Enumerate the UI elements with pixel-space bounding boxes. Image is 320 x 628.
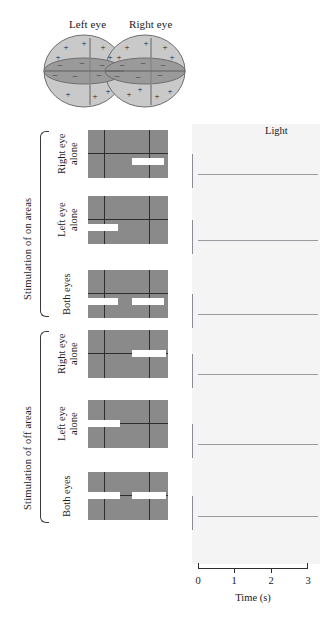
trace-baseline [198,516,318,517]
svg-text:+: + [137,84,142,94]
trace-baseline [198,240,318,241]
svg-text:–: – [157,69,163,79]
binocular-response-figure: Left eye Right eye +++ ++ +++ ––– ––– [0,0,320,628]
svg-text:–: – [99,59,105,69]
svg-text:–: – [96,69,102,79]
stimulus-bar-right [132,158,164,165]
condition-label-on-both-eyes: Both eyes [61,270,73,318]
stimulus-bar-right [132,350,166,357]
section-title-off-areas: Stimulation of off areas [22,350,33,510]
panel-horizontal-line [88,219,168,220]
svg-text:–: – [140,57,146,67]
svg-text:–: – [79,57,85,67]
stimulus-panel-on-left-eye [88,196,168,244]
stimulus-bar-right [132,298,164,305]
svg-text:+: + [154,91,159,101]
stimulus-bar-left [86,420,120,427]
svg-text:–: – [57,59,63,69]
axis-tick-label: 0 [195,575,200,586]
spike [192,424,193,458]
axis-end-cap-left [198,563,199,568]
trace-baseline [198,314,318,315]
stimulus-panel-off-left-eye [88,400,168,448]
spike-train-row [192,196,320,258]
trace-baseline [198,174,318,175]
spike [192,220,193,254]
spike [192,294,193,328]
condition-label-on-right-eye: Right eye alone [56,130,80,178]
axis-tick-label: 1 [231,575,236,586]
axis-end-cap-right [307,563,308,568]
axis-tick-label: 2 [268,575,273,586]
spike [192,496,193,530]
svg-text:+: + [162,42,167,52]
condition-label-on-left-eye: Left eye alone [56,196,80,244]
spike-train-row [192,270,320,332]
condition-label-off-right-eye: Right eye alone [56,330,80,378]
bracket-off-areas [40,331,49,523]
svg-text:–: – [72,70,78,80]
receptive-field-svg: +++ ++ +++ ––– ––– +++ ++ ++ ++ ––– ––– [0,0,320,124]
svg-text:–: – [114,70,120,80]
panel-horizontal-line [88,153,168,154]
spike-train-row [192,472,320,534]
svg-text:–: – [52,69,58,79]
svg-text:+: + [169,52,174,62]
stimulus-bar-right [132,492,166,499]
axis-tick [234,568,235,573]
axis-line [198,568,308,569]
axis-title: Time (s) [192,592,314,603]
svg-text:+: + [143,38,148,48]
svg-text:–: – [135,71,141,81]
condition-label-off-left-eye: Left eye alone [56,400,80,448]
spike [192,154,193,188]
condition-label-off-both-eyes: Both eyes [61,472,73,520]
spike-train-row [192,130,320,192]
trace-baseline [198,374,318,375]
spike-train-panel: Light [192,124,320,564]
time-axis: 0 1 2 3 Time (s) [192,562,320,628]
svg-text:+: + [107,52,112,62]
stimulus-bar-left [86,224,118,231]
stimulus-bar-left [86,298,118,305]
svg-text:–: – [119,59,125,69]
svg-text:+: + [100,42,105,52]
svg-text:+: + [65,89,70,99]
svg-text:+: + [105,86,110,96]
trace-baseline [198,444,318,445]
axis-tick [271,568,272,573]
spike [192,354,193,388]
receptive-field-diagram: Left eye Right eye +++ ++ +++ ––– ––– [0,0,320,124]
svg-text:+: + [126,89,131,99]
section-title-on-areas: Stimulation of on areas [22,150,33,300]
svg-text:+: + [92,91,97,101]
axis-tick-label: 3 [305,575,310,586]
svg-text:+: + [81,38,86,48]
stimulus-panel-on-both-eyes [88,270,168,318]
svg-text:+: + [167,86,172,96]
svg-text:+: + [124,42,129,52]
stimulus-panel-off-both-eyes [88,472,168,520]
stimulus-panel-on-right-eye [88,130,168,178]
svg-text:–: – [160,59,166,69]
svg-text:+: + [63,42,68,52]
bracket-on-areas [40,131,49,317]
stimulus-bar-left [86,492,120,499]
stimulus-panel-off-right-eye [88,330,168,378]
panel-horizontal-line [88,293,168,294]
spike-train-row [192,330,320,392]
spike-train-row [192,400,320,462]
